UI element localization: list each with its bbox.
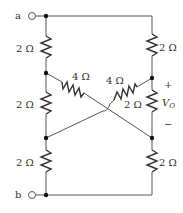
terminal-b: [29, 192, 36, 199]
node-vo-minus: [150, 136, 154, 140]
resistor-left-top: [41, 36, 51, 58]
label-right-bottom: 2 Ω: [159, 157, 177, 168]
node-a-junction: [44, 14, 48, 18]
label-left-mid: 2 Ω: [16, 99, 34, 110]
terminal-a-label: a: [15, 10, 21, 21]
label-left-top: 2 Ω: [16, 43, 34, 54]
label-cross-right: 4 Ω: [106, 75, 124, 86]
vo-label: VO: [162, 97, 175, 110]
resistor-left-bottom: [41, 150, 51, 172]
right-column: [147, 34, 157, 195]
vo-minus-sign: −: [164, 119, 172, 130]
top-wire: [36, 16, 152, 34]
label-right-mid: 2 Ω: [124, 99, 142, 110]
node-vo-plus: [150, 76, 154, 80]
resistor-left-mid: [41, 92, 51, 114]
label-right-top: 2 Ω: [159, 42, 177, 53]
resistor-cross-left: [62, 82, 84, 97]
terminal-b-label: b: [15, 189, 21, 200]
resistor-right-bottom: [147, 150, 157, 172]
circuit-diagram: a b 2 Ω 2 Ω 2 Ω 2 Ω 2 Ω 2 Ω 4 Ω 4 Ω + VO…: [0, 0, 183, 213]
left-column: [41, 16, 51, 195]
resistor-right-top: [147, 34, 157, 56]
resistor-cross-right: [114, 84, 137, 100]
label-cross-left: 4 Ω: [72, 71, 90, 82]
resistor-right-mid: [147, 90, 157, 112]
node-left-lower: [44, 136, 48, 140]
terminal-a: [29, 13, 36, 20]
node-left-upper: [44, 71, 48, 75]
vo-plus-sign: +: [164, 79, 172, 90]
label-left-bottom: 2 Ω: [16, 157, 34, 168]
node-b-junction: [44, 193, 48, 197]
